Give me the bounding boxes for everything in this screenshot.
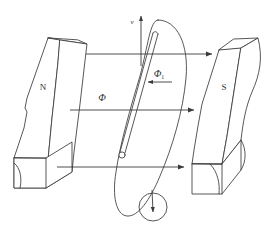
physics-diagram-canvas: N S Φ Φ1 v — [0, 0, 272, 247]
coil-terminal-circle — [119, 152, 125, 158]
south-pole-label: S — [221, 82, 226, 92]
north-pole-label: N — [40, 82, 47, 92]
diagram-svg: N S Φ Φ1 v — [0, 0, 272, 247]
flux-total-label: Φ — [98, 92, 106, 103]
